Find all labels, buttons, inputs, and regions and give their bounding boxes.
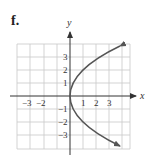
axes: [10, 32, 136, 155]
y-axis-label: y: [66, 17, 72, 28]
parabola-chart: x y −3 −2 1 2 3 3 2 1 −1 −2 −3: [0, 0, 151, 165]
y-tick-label: 3: [63, 52, 68, 62]
y-tick-label: 2: [63, 65, 68, 75]
x-tick-label: 3: [107, 98, 112, 108]
x-axis-label: x: [139, 90, 145, 101]
x-tick-label: 1: [81, 98, 86, 108]
y-tick-label: 1: [63, 78, 68, 88]
x-tick-label: −3: [22, 98, 32, 108]
y-tick-label: −2: [58, 117, 68, 127]
x-tick-label: −2: [36, 98, 46, 108]
x-tick-label: 2: [94, 98, 99, 108]
y-tick-label: −3: [58, 130, 68, 140]
y-tick-label: −1: [58, 104, 68, 114]
